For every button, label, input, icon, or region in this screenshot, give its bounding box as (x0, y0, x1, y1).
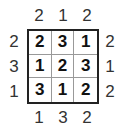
left-clue: 1 (2, 80, 26, 104)
bottom-clue: 3 (51, 106, 75, 130)
left-clue: 3 (2, 55, 26, 79)
left-clue: 2 (2, 30, 26, 54)
grid-cell[interactable]: 2 (52, 55, 75, 79)
grid-cell[interactable]: 2 (74, 78, 97, 102)
right-clue: 1 (98, 55, 122, 79)
grid-cell[interactable]: 3 (74, 55, 97, 79)
grid-cell[interactable]: 1 (74, 31, 97, 55)
top-clue: 1 (51, 4, 75, 28)
right-clue: 2 (98, 80, 122, 104)
right-clue: 2 (98, 30, 122, 54)
grid-cell[interactable]: 1 (29, 55, 52, 79)
grid-cell[interactable]: 1 (52, 78, 75, 102)
grid-cell[interactable]: 2 (29, 31, 52, 55)
puzzle-grid: 2 3 1 1 2 3 3 1 2 (27, 29, 99, 104)
bottom-clue: 2 (75, 106, 99, 130)
top-clue: 2 (27, 4, 51, 28)
top-clue: 2 (75, 4, 99, 28)
bottom-clue: 1 (27, 106, 51, 130)
grid-cell[interactable]: 3 (52, 31, 75, 55)
grid-cell[interactable]: 3 (29, 78, 52, 102)
